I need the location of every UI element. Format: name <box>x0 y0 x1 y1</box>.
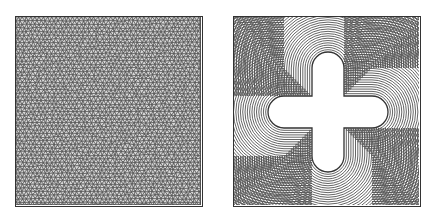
cross-offset-contours-panel <box>233 16 421 207</box>
triangular-mesh-panel <box>15 16 203 207</box>
contour-graphic <box>234 17 419 205</box>
mesh-graphic <box>16 17 201 205</box>
